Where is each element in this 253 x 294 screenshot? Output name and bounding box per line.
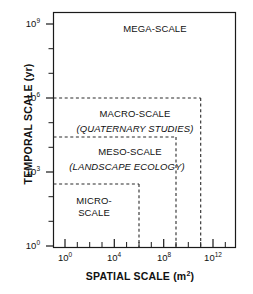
x-axis-title: SPATIAL SCALE (m2) (40, 270, 240, 282)
x-axis-minor-ticks (77, 242, 225, 248)
region-label-micro-scale-line1: MICRO- (76, 195, 111, 206)
y-axis-minor-ticks (49, 49, 54, 222)
region-sublabel-macro-scale: (QUATERNARY STUDIES) (60, 123, 210, 134)
x-tick-label-1e8: 108 (144, 252, 184, 263)
y-axis-major-ticks (46, 24, 54, 246)
region-sublabel-meso-scale: (LANDSCAPE ECOLOGY) (52, 161, 202, 172)
region-label-micro-scale: MICRO- SCALE (63, 195, 125, 219)
x-axis-title-text: SPATIAL SCALE (m (86, 270, 187, 282)
x-tick-label-1e12: 1012 (193, 252, 233, 263)
macro-scale-region-boundary (54, 98, 201, 248)
x-axis-title-tail: ) (191, 270, 195, 282)
y-axis-title: TEMPORAL SCALE (yr) (22, 34, 34, 214)
x-tick-label-1e0: 100 (45, 252, 85, 263)
region-label-micro-scale-line2: SCALE (78, 207, 110, 218)
x-tick-label-1e4: 104 (94, 252, 134, 263)
region-label-macro-scale: MACRO-SCALE (85, 108, 185, 119)
y-tick-label-1e0: 100 (6, 240, 40, 251)
region-label-meso-scale: MESO-SCALE (80, 146, 180, 157)
scale-hierarchy-figure: 109 106 103 100 100 104 108 1012 MEGA-SC… (0, 0, 253, 294)
region-label-mega-scale: MEGA-SCALE (105, 23, 205, 34)
y-tick-label-1e9: 109 (6, 18, 40, 29)
